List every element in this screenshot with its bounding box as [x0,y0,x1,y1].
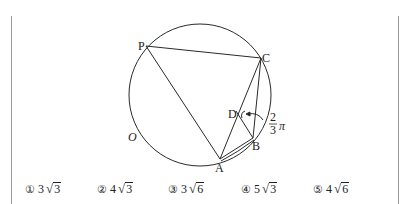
answer-choices: ①3√3 ②4√3 ③3√6 ④5√3 ⑤4√6 [0,181,401,199]
choice-radicand: 6 [341,182,349,196]
sqrt-icon: √3 [262,181,277,197]
choice-radicand: 3 [269,182,277,196]
point-c-label: C [262,51,270,65]
choice-coef: 4 [110,182,116,196]
choice-coef: 3 [38,182,44,196]
sqrt-icon: √3 [118,181,133,197]
point-b-label: B [252,139,260,153]
choice-5[interactable]: ⑤4√6 [313,181,349,197]
point-p-label: P [138,39,145,53]
choice-coef: 4 [326,182,332,196]
segment-pc [146,46,261,58]
sqrt-icon: √3 [46,181,61,197]
choice-2[interactable]: ②4√3 [97,181,133,197]
choice-number: ③ [168,183,178,195]
right-angle-mark [241,111,245,118]
angle-numerator: 2 [270,110,276,124]
sqrt-icon: √6 [189,181,204,197]
arrowhead-icon [246,112,250,116]
point-d-label: D [228,107,237,121]
choice-radicand: 6 [196,182,204,196]
choice-coef: 3 [181,182,187,196]
choice-number: ⑤ [313,183,323,195]
choice-3[interactable]: ③3√6 [168,181,204,197]
angle-pi: π [279,119,286,133]
choice-4[interactable]: ④5√3 [241,181,277,197]
point-a-label: A [215,161,224,175]
segment-pa [146,46,220,159]
segment-cb [253,58,261,138]
geometry-figure: P C D B A O 2 3 π [0,0,401,204]
circle-o [129,24,271,166]
angle-denominator: 3 [270,123,276,137]
choice-radicand: 3 [53,182,61,196]
choice-number: ② [97,183,107,195]
choice-1[interactable]: ①3√3 [25,181,61,197]
circle-o-label: O [128,130,137,144]
choice-coef: 5 [254,182,260,196]
choice-number: ④ [241,183,251,195]
sqrt-icon: √6 [334,181,349,197]
choice-radicand: 3 [125,182,133,196]
choice-number: ① [25,183,35,195]
